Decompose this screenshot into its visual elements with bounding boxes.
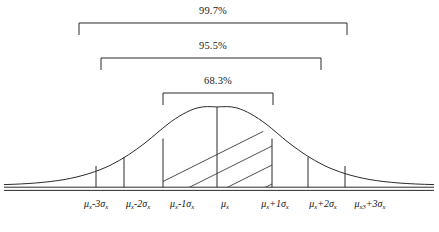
bracket-label-95-5: 95.5% [199,41,227,52]
mu-subscript: x [131,203,134,210]
sigma-subscript: x [105,203,108,210]
axis-label-plus-1-sigma: μx+1σx [261,199,289,209]
sigma-subscript: x [191,203,194,210]
axis-label-minus-2-sigma: μx-2σx [126,199,150,209]
mu-subscript: x3 [360,203,366,210]
sigma-subscript: x [147,203,150,210]
mu-subscript: x [314,203,317,210]
bracket-label-68-3: 68.3% [204,76,232,87]
mu-subscript: x [226,203,229,210]
axis-label-plus-2-sigma: μx+2σx [309,199,337,209]
axis-label-plus-3-sigma: μx3+3σx [355,199,386,209]
sigma-glyph: σ [329,198,334,209]
bracket-one-sigma [163,93,273,105]
sigma-subscript: x [286,203,289,210]
mu-subscript: x [266,203,269,210]
hatch-fill [140,113,300,232]
bracket-label-99-7: 99.7% [199,6,227,17]
axis-label-minus-3-sigma: μx-3σx [84,199,108,209]
axis-label-minus-1-sigma: μx-1σx [170,199,194,209]
axis-label-mean: μx [221,199,229,209]
figure-canvas: 99.7% 95.5% 68.3% μx-3σx μx-2σx μx-1σx μ… [0,0,439,232]
operator: +2 [317,198,329,209]
sigma-subscript: x [334,203,337,210]
sigma-subscript: x [383,203,386,210]
mu-subscript: x [175,203,178,210]
operator: +1 [269,198,281,209]
sigma-glyph: σ [281,198,286,209]
mu-subscript: x [89,203,92,210]
bracket-two-sigma [101,58,321,70]
operator: +3 [366,198,378,209]
bracket-three-sigma [79,23,347,35]
